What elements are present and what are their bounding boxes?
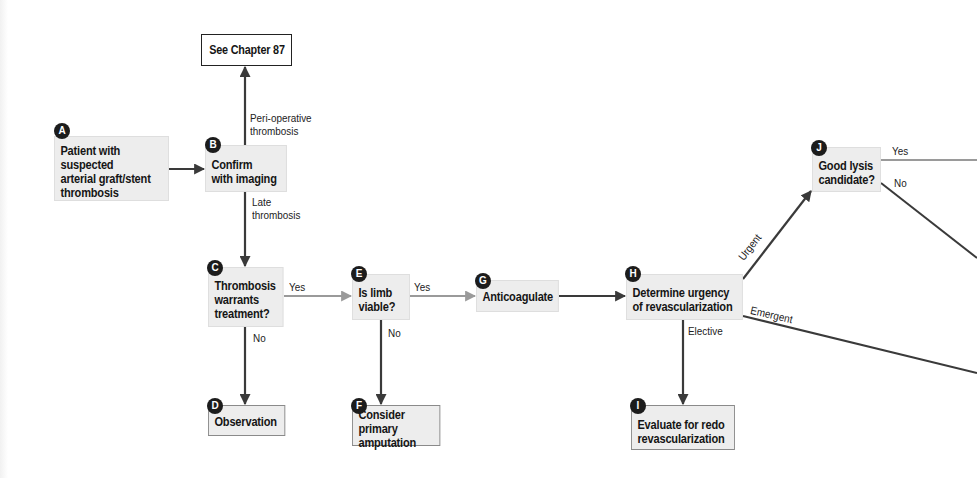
node-text: Thrombosis warrants treatment?: [214, 279, 275, 321]
node-text: Patient with suspected arterial graft/st…: [60, 144, 162, 200]
edge-j-no: [881, 183, 977, 258]
node-see-chapter-87: See Chapter 87: [201, 34, 292, 66]
label-c-no: No: [253, 332, 266, 345]
node-text: See Chapter 87: [209, 43, 285, 57]
node-c-warrants-treatment: Thrombosis warrants treatment?: [208, 267, 283, 327]
badge-d: D: [207, 398, 223, 414]
node-text: Observation: [214, 415, 276, 429]
node-text: Good lysis candidate?: [818, 159, 874, 187]
label-c-yes: Yes: [289, 281, 305, 294]
node-text: Evaluate for redo revascularization: [637, 418, 724, 446]
label-elective: Elective: [688, 325, 723, 338]
node-text: Determine urgency of revascularization: [632, 286, 732, 314]
node-text: Is limb viable?: [358, 286, 395, 314]
badge-i: I: [630, 398, 646, 414]
badge-f: F: [351, 398, 367, 414]
node-a-suspected-thrombosis: Patient with suspected arterial graft/st…: [54, 136, 169, 201]
node-b-confirm-imaging: Confirm with imaging: [205, 145, 287, 192]
badge-a: A: [54, 123, 70, 139]
node-text: Consider primary amputation: [358, 408, 433, 450]
label-e-yes: Yes: [414, 281, 430, 294]
badge-j: J: [811, 140, 827, 156]
node-text: Confirm with imaging: [211, 158, 276, 186]
node-text: Anticoagulate: [482, 290, 553, 304]
badge-b: B: [205, 137, 221, 153]
badge-c: C: [207, 260, 223, 276]
node-f-primary-amputation: Consider primary amputation: [352, 405, 440, 446]
label-late-thrombosis: Late thrombosis: [252, 196, 300, 222]
node-i-evaluate-redo: Evaluate for redo revascularization: [631, 405, 735, 450]
edges-layer: [0, 0, 977, 478]
label-peri-operative: Peri-operative thrombosis: [250, 112, 312, 138]
node-h-determine-urgency: Determine urgency of revascularization: [626, 274, 743, 320]
label-j-no: No: [894, 177, 907, 190]
edge-h-emergent: [743, 316, 977, 373]
label-e-no: No: [388, 327, 401, 340]
badge-h: H: [625, 266, 641, 282]
badge-g: G: [475, 273, 491, 289]
badge-e: E: [351, 266, 367, 282]
label-j-yes: Yes: [892, 145, 908, 158]
